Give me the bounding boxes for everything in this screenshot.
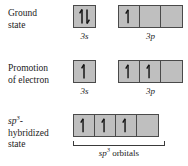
orbital-box[interactable] [74,61,95,82]
sp3-orbitals-bracket [73,141,165,146]
caption-sublevel: s [85,86,89,96]
orbital-box[interactable] [161,61,182,82]
orbital-group-3s [73,60,96,83]
caption-3p: 3p [118,31,183,41]
caption-3p: 3p [118,86,183,96]
orbital-group-3p [118,60,183,83]
orbital-box[interactable] [74,115,95,136]
caption-sublevel: p [151,86,156,96]
caption-sublevel: p [151,31,156,41]
caption-sp3-orbitals: sp3 orbitals [73,148,165,158]
caption-3s: 3s [73,86,96,96]
row-label-ground-state: Ground state [8,8,37,31]
row-label-line: state [8,20,37,32]
electron-up-icon [119,6,139,27]
orbital-diagram: Ground state 3s [0,0,188,166]
row-label-line: of electron [8,75,49,87]
sp-tail: - [20,116,23,126]
orbital-box[interactable] [140,6,161,27]
row-label-line: hybridized [8,128,49,140]
electron-up-icon [119,61,139,82]
orbital-box[interactable] [137,115,158,136]
row-label-sp3-hybridized-state: sp3- hybridized state [8,116,49,151]
row-label-line: Promotion [8,63,49,75]
orbital-group-3p [118,5,183,28]
caption-sublevel: s [85,31,89,41]
orbital-box[interactable] [116,115,137,136]
orbital-box[interactable] [161,6,182,27]
electron-up-icon [116,115,136,136]
row-promotion-of-electron: Promotion of electron 3s [0,55,188,110]
row-sp3-hybridized-state: sp3- hybridized state [0,110,188,166]
caption-tail: orbitals [110,148,139,158]
orbital-box[interactable] [119,61,140,82]
orbital-box[interactable] [140,61,161,82]
row-label-line: state [8,139,49,151]
caption-3s: 3s [73,31,96,41]
row-ground-state: Ground state 3s [0,0,188,55]
row-label-promotion-of-electron: Promotion of electron [8,63,49,86]
electron-up-icon [95,115,115,136]
orbital-box[interactable] [95,115,116,136]
orbital-box[interactable] [74,6,95,27]
electron-up-icon [74,115,94,136]
orbital-box[interactable] [119,6,140,27]
orbital-group-sp3 [73,114,159,137]
electron-up-icon [140,61,160,82]
orbital-group-3s [73,5,96,28]
electron-up-icon [74,61,95,82]
row-label-line: sp3- [8,116,49,128]
electron-pair-up-down-icon [74,6,95,27]
row-label-line: Ground [8,8,37,20]
caption-sp: sp [99,148,107,158]
